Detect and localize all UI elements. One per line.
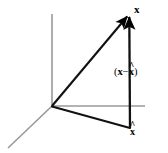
axes-group (8, 14, 145, 148)
vector-x-line (52, 17, 127, 107)
depth-axis-line (8, 106, 52, 148)
vector-diagram-figure: x x ^ (x−x^) (0, 0, 168, 153)
residual-circumflex-icon: ^ (128, 61, 134, 71)
vector-x-hat-label: x ^ (130, 127, 135, 137)
circumflex-icon: ^ (130, 121, 136, 131)
vector-x-hat-line (52, 107, 130, 129)
residual-close-paren: ) (134, 66, 138, 77)
vector-x-label: x (134, 4, 140, 15)
residual-x-hat-glyph: x^ (129, 67, 134, 78)
diagram-canvas (0, 0, 168, 153)
x-hat-glyph: x ^ (130, 127, 135, 137)
residual-label: (x−x^) (114, 67, 137, 78)
